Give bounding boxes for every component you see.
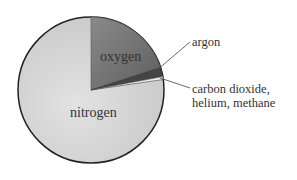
trace-label-1: carbon dioxide, [192,82,270,96]
argon-label: argon [192,35,220,49]
oxygen-label: oxygen [100,50,141,64]
nitrogen-label: nitrogen [70,106,117,120]
trace-label-2: helium, methane [192,96,275,110]
argon-leader [157,42,190,70]
